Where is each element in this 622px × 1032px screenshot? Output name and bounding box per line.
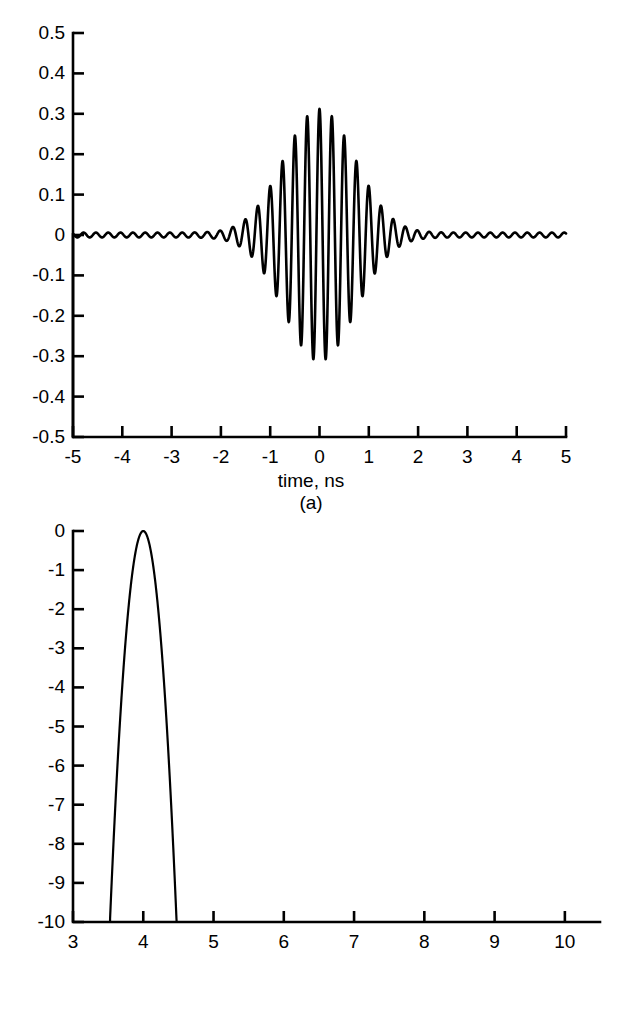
x-axis-tick-label: -4: [114, 446, 131, 467]
data-curve: [110, 531, 177, 922]
x-axis-tick-label: 2: [413, 446, 424, 467]
frequency-domain-plot: 0-1-2-3-4-5-6-7-8-9-10345678910: [0, 500, 622, 1032]
x-axis-tick-label: -1: [262, 446, 279, 467]
y-axis-tick-label: -0.5: [32, 426, 65, 447]
y-axis-tick-label: -5: [48, 716, 65, 737]
y-axis-tick-label: -2: [48, 598, 65, 619]
y-axis-tick-label: 0.2: [39, 143, 65, 164]
x-axis-tick-label: 3: [68, 931, 79, 952]
x-axis-tick-label: 5: [561, 446, 572, 467]
x-axis-tick-label: -5: [65, 446, 82, 467]
panel-a-time-domain: 0.50.40.30.20.10-0.1-0.2-0.3-0.4-0.5-5-4…: [0, 0, 622, 520]
y-axis-tick-label: 0.5: [39, 22, 65, 43]
x-axis-tick-label: 8: [419, 931, 430, 952]
y-axis-tick-label: -0.2: [32, 305, 65, 326]
y-axis-tick-label: 0.1: [39, 184, 65, 205]
x-axis-tick-label: 9: [489, 931, 500, 952]
y-axis-tick-label: -0.3: [32, 345, 65, 366]
y-axis-tick-label: -0.4: [32, 386, 65, 407]
figure-container: 0.50.40.30.20.10-0.1-0.2-0.3-0.4-0.5-5-4…: [0, 0, 622, 1032]
axis-spines: [73, 531, 600, 922]
y-axis-tick-label: -0.1: [32, 264, 65, 285]
y-axis-tick-label: 0: [54, 520, 65, 541]
y-axis-tick-label: -1: [48, 559, 65, 580]
x-axis-tick-label: -2: [212, 446, 229, 467]
y-axis-tick-label: -7: [48, 794, 65, 815]
x-axis-label-time: time, ns: [0, 470, 622, 492]
x-axis-tick-label: 6: [279, 931, 290, 952]
x-axis-tick-label: 0: [314, 446, 325, 467]
time-domain-plot: 0.50.40.30.20.10-0.1-0.2-0.3-0.4-0.5-5-4…: [0, 0, 622, 520]
y-axis-tick-label: 0.4: [39, 62, 66, 83]
y-axis-tick-label: -3: [48, 637, 65, 658]
y-axis-tick-label: -6: [48, 755, 65, 776]
panel-b-frequency-domain: 0-1-2-3-4-5-6-7-8-9-10345678910 frequenc…: [0, 500, 622, 1032]
x-axis-tick-label: 5: [208, 931, 219, 952]
data-curve: [73, 109, 566, 437]
y-axis-tick-label: -4: [48, 676, 65, 697]
x-axis-tick-label: 4: [511, 446, 522, 467]
x-axis-tick-label: 1: [364, 446, 375, 467]
x-axis-tick-label: 10: [554, 931, 575, 952]
y-axis-tick-label: 0: [54, 224, 65, 245]
x-axis-tick-label: 3: [462, 446, 473, 467]
x-axis-tick-label: 4: [138, 931, 149, 952]
y-axis-tick-label: 0.3: [39, 103, 65, 124]
y-axis-tick-label: -10: [38, 911, 65, 932]
y-axis-tick-label: -8: [48, 833, 65, 854]
x-axis-tick-label: 7: [349, 931, 360, 952]
x-axis-tick-label: -3: [163, 446, 180, 467]
y-axis-tick-label: -9: [48, 872, 65, 893]
